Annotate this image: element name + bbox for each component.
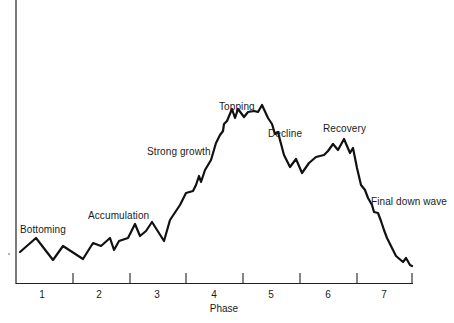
annotation-accumulation: Accumulation xyxy=(88,210,149,221)
annotation-topping: Topping xyxy=(219,101,255,112)
x-tick-label-5: 5 xyxy=(268,289,274,300)
x-tick-label-3: 3 xyxy=(154,289,160,300)
stray-mark xyxy=(8,253,10,255)
annotation-bottoming: Bottoming xyxy=(20,224,66,235)
annotation-decline: Decline xyxy=(268,128,302,139)
cycle-chart xyxy=(0,0,454,323)
x-axis-ticks xyxy=(73,273,412,284)
x-tick-label-4: 4 xyxy=(211,289,217,300)
x-tick-label-2: 2 xyxy=(96,289,102,300)
x-tick-label-1: 1 xyxy=(39,289,45,300)
annotation-final-down-wave: Final down wave xyxy=(371,196,447,207)
x-axis-label: Phase xyxy=(210,303,238,314)
x-tick-label-6: 6 xyxy=(325,289,331,300)
annotation-strong-growth: Strong growth xyxy=(147,146,211,157)
x-tick-label-7: 7 xyxy=(381,289,387,300)
annotation-recovery: Recovery xyxy=(323,123,366,134)
